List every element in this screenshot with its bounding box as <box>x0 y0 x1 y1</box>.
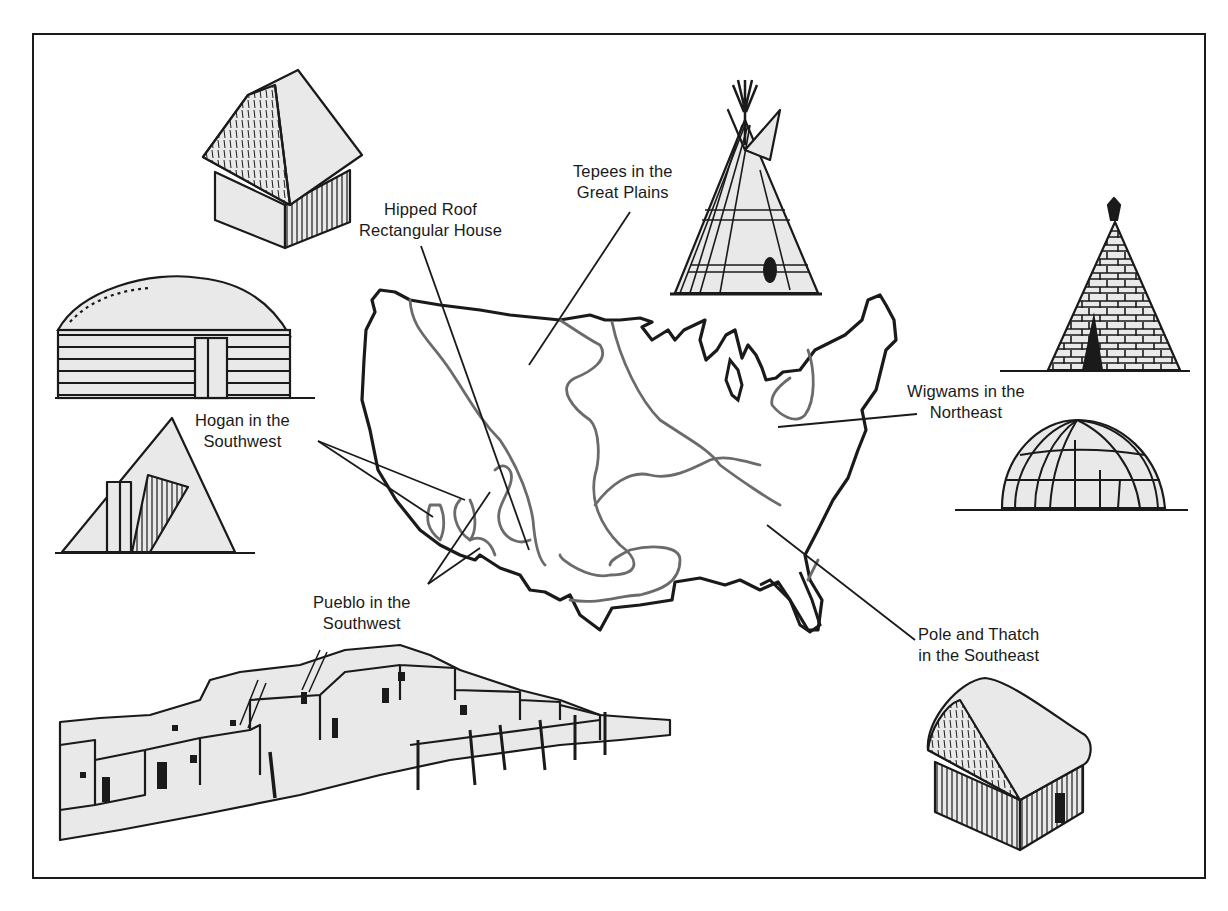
label-pueblo-line2: Southwest <box>313 613 411 634</box>
label-pole-thatch-line1: Pole and Thatch <box>918 624 1039 645</box>
hipped-roof-house-illustration <box>203 70 362 248</box>
label-pole-thatch: Pole and Thatch in the Southeast <box>918 624 1039 666</box>
plains-tepee-illustration <box>670 80 822 294</box>
us-map-outline <box>362 290 896 630</box>
label-pueblo: Pueblo in the Southwest <box>313 592 411 634</box>
label-hogan-line1: Hogan in the <box>195 410 290 431</box>
log-hogan-illustration <box>55 276 315 398</box>
label-tepees-line2: Great Plains <box>573 182 672 203</box>
pole-thatch-house-illustration <box>928 678 1091 850</box>
label-wigwams: Wigwams in the Northeast <box>907 381 1025 423</box>
label-hogan-line2: Southwest <box>195 431 290 452</box>
label-tepees-line1: Tepees in the <box>573 161 672 182</box>
label-tepees: Tepees in the Great Plains <box>573 161 672 203</box>
us-map <box>362 290 896 632</box>
illustration-canvas <box>0 0 1228 911</box>
label-pueblo-line1: Pueblo in the <box>313 592 411 613</box>
label-wigwams-line2: Northeast <box>907 402 1025 423</box>
label-hipped-roof: Hipped Roof Rectangular House <box>359 199 502 241</box>
pueblo-illustration <box>60 645 670 840</box>
label-hipped-roof-line1: Hipped Roof <box>359 199 502 220</box>
wigwam-illustration <box>955 420 1188 510</box>
bark-tepee-illustration <box>1000 198 1190 371</box>
label-hipped-roof-line2: Rectangular House <box>359 220 502 241</box>
label-pole-thatch-line2: in the Southeast <box>918 645 1039 666</box>
label-hogan: Hogan in the Southwest <box>195 410 290 452</box>
label-wigwams-line1: Wigwams in the <box>907 381 1025 402</box>
